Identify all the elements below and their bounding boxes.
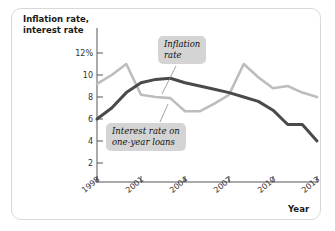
leader-line-interest [160, 104, 168, 122]
y-axis-ticks [97, 53, 103, 163]
y-tick-label-10: 10 [55, 71, 93, 80]
y-tick-label-12: 12% [55, 49, 93, 58]
annotation-inflation-rate: Inflation rate [158, 36, 206, 64]
chart-figure: Inflation rate, interest rate Year 12% 1… [0, 0, 335, 231]
y-tick-label-2: 2 [55, 159, 93, 168]
y-tick-label-4: 4 [55, 137, 93, 146]
annotation-interest-rate: Interest rate on one-year loans [106, 123, 186, 151]
y-tick-label-6: 6 [55, 115, 93, 124]
x-axis-title: Year [288, 204, 309, 215]
x-axis-ticks [97, 176, 317, 182]
y-axis-title: Inflation rate, interest rate [23, 14, 89, 36]
y-tick-label-8: 8 [55, 93, 93, 102]
